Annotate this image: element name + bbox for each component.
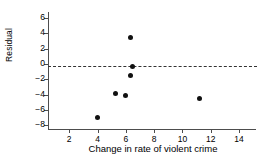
y-tick-label: 4 (40, 27, 45, 38)
y-tick-label: −2 (35, 73, 45, 84)
data-point (130, 64, 135, 69)
x-axis-line (48, 129, 256, 130)
data-point (128, 73, 133, 78)
x-tick-mark (211, 129, 212, 133)
x-tick-mark (154, 129, 155, 133)
residual-scatter-plot: Residual 6420−2−4−6−8 2468101214 Change … (0, 0, 266, 164)
y-axis-title: Residual (4, 10, 14, 80)
y-axis-line (48, 12, 49, 130)
x-tick-mark (126, 129, 127, 133)
y-tick-label: −6 (35, 104, 45, 115)
y-tick-label: 0 (40, 58, 45, 69)
plot-area: 6420−2−4−6−8 2468101214 (48, 12, 256, 130)
data-point (197, 96, 202, 101)
x-axis-title: Change in rate of violent crime (0, 143, 266, 154)
x-tick-mark (69, 129, 70, 133)
y-tick-label: −8 (35, 119, 45, 130)
zero-reference-line (48, 66, 257, 67)
y-tick-label: 2 (40, 43, 45, 54)
x-tick-mark (98, 129, 99, 133)
data-point (128, 35, 133, 40)
x-tick-mark (239, 129, 240, 133)
x-tick-mark (182, 129, 183, 133)
data-point (95, 115, 100, 120)
data-point (113, 91, 118, 96)
y-tick-label: −4 (35, 89, 45, 100)
data-point (123, 93, 128, 98)
y-tick-label: 6 (40, 12, 45, 23)
